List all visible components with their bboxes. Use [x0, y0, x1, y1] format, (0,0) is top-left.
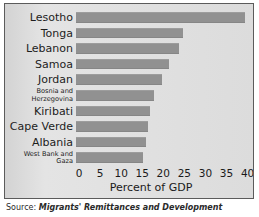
bar: [76, 121, 148, 132]
bar-track: [76, 119, 253, 135]
bar: [76, 59, 169, 70]
source-caption: Source: Migrants' Remittances and Develo…: [6, 203, 259, 213]
bar: [76, 28, 183, 39]
bar-row: Cape Verde: [5, 119, 253, 135]
bar-track: [76, 57, 253, 73]
bar: [76, 74, 162, 85]
bar-category-label-line: Gaza: [56, 158, 73, 165]
bar-row: Lesotho: [5, 10, 253, 26]
bar-track: [76, 104, 253, 120]
bar-track: [76, 41, 253, 57]
bar-row: Kiribati: [5, 104, 253, 120]
bar-category-label: Tonga: [5, 26, 73, 42]
x-axis-tick-label: 40: [241, 167, 254, 180]
bar-category-label: Kiribati: [5, 104, 73, 120]
bar-category-label: Samoa: [5, 57, 73, 73]
bar-track: [76, 26, 253, 42]
source-label: Source:: [6, 203, 36, 212]
x-axis-tick-label: 5: [97, 167, 104, 180]
x-axis-tick-label: 20: [157, 167, 170, 180]
x-axis-ticks: 0510152025303540: [76, 167, 253, 181]
bar: [76, 43, 179, 54]
bar-track: [76, 88, 253, 104]
bar: [76, 90, 154, 101]
x-axis-title-text: Percent of GDP: [110, 181, 193, 194]
bar-row: Jordan: [5, 72, 253, 88]
bar-row: Bosnia andHerzegovina: [5, 88, 253, 104]
bar-row: Tonga: [5, 26, 253, 42]
x-axis-tick-label: 15: [136, 167, 149, 180]
bar-track: [76, 135, 253, 151]
x-axis-tick-label: 30: [199, 167, 212, 180]
bar-category-label: West Bank andGaza: [5, 150, 73, 166]
bar-row: Lebanon: [5, 41, 253, 57]
bar-category-label: Albania: [5, 135, 73, 151]
chart-plot-frame: LesothoTongaLebanonSamoaJordanBosnia and…: [4, 3, 254, 199]
chart-figure: LesothoTongaLebanonSamoaJordanBosnia and…: [0, 0, 259, 217]
bar-track: [76, 72, 253, 88]
bar-track: [76, 150, 253, 166]
bar-row: Albania: [5, 135, 253, 151]
bar-category-label-line: Herzegovina: [32, 96, 73, 103]
bar-category-label: Jordan: [5, 72, 73, 88]
x-axis-tick-label: 0: [76, 167, 83, 180]
source-title: Migrants' Remittances and Development: [39, 203, 223, 212]
x-axis-tick-label: 10: [114, 167, 127, 180]
x-axis-tick-label: 35: [220, 167, 233, 180]
bar-category-label: Bosnia andHerzegovina: [5, 88, 73, 104]
bar: [76, 106, 150, 117]
bar-track: [76, 10, 253, 26]
bar-category-label: Lesotho: [5, 10, 73, 26]
x-axis-title: Percent of GDP: [5, 181, 253, 194]
x-axis-tick-label: 25: [178, 167, 191, 180]
bar: [76, 137, 146, 148]
bar: [76, 152, 143, 163]
bar: [76, 12, 245, 23]
bar-rows-container: LesothoTongaLebanonSamoaJordanBosnia and…: [5, 10, 253, 166]
bar-row: West Bank andGaza: [5, 150, 253, 166]
bar-row: Samoa: [5, 57, 253, 73]
bar-category-label: Cape Verde: [5, 119, 73, 135]
bar-chart-plot: LesothoTongaLebanonSamoaJordanBosnia and…: [5, 4, 253, 198]
bar-category-label: Lebanon: [5, 41, 73, 57]
